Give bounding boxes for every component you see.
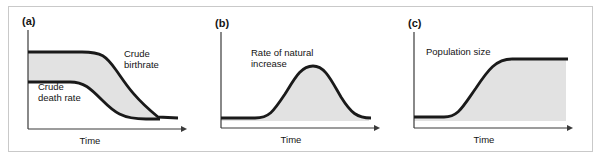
panel-a: (a) Crude birthrate Crude death rate Tim… xyxy=(10,0,205,159)
panel-c-label: (c) xyxy=(408,17,422,29)
panel-a-birthrate-label-line1: Crude xyxy=(124,48,150,59)
panel-c-chart: (c) Population size Time xyxy=(400,0,595,159)
panel-b-label: (b) xyxy=(215,17,229,29)
panel-a-deathrate-label-line2: death rate xyxy=(38,92,81,103)
panel-c: (c) Population size Time xyxy=(400,0,595,159)
panel-b-x-axis-label: Time xyxy=(281,134,302,145)
panel-c-curve-label: Population size xyxy=(426,46,490,57)
panel-a-label: (a) xyxy=(22,15,36,27)
panel-b-chart: (b) Rate of natural increase Time xyxy=(207,0,402,159)
panel-b: (b) Rate of natural increase Time xyxy=(207,0,402,159)
panel-a-deathrate-label-line1: Crude xyxy=(38,81,64,92)
panel-a-birthrate-label-line2: birthrate xyxy=(124,59,159,70)
demographic-transition-figure: (a) Crude birthrate Crude death rate Tim… xyxy=(0,0,602,159)
panel-c-x-axis-label: Time xyxy=(474,134,495,145)
panel-b-shaded-area xyxy=(221,66,369,121)
panel-b-curve-label-line2: increase xyxy=(251,58,287,69)
panel-a-x-axis-label: Time xyxy=(80,135,101,146)
panel-a-chart: (a) Crude birthrate Crude death rate Tim… xyxy=(10,0,205,159)
panel-b-curve-label-line1: Rate of natural xyxy=(251,47,313,58)
